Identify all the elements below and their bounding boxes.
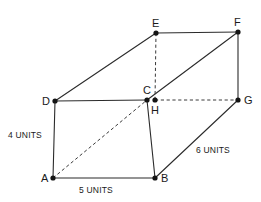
width-label: 5 UNITS: [79, 185, 113, 195]
vertex-dot-c: [144, 97, 149, 102]
height-label: 4 UNITS: [8, 130, 42, 140]
vertex-label-c: C: [143, 84, 151, 96]
depth-label: 6 UNITS: [196, 145, 230, 155]
vertex-label-a: A: [41, 172, 49, 184]
vertex-dots-group: [50, 29, 240, 180]
edge-a-c: [53, 100, 147, 178]
edge-d-c: [55, 100, 147, 101]
edges-group: [53, 32, 238, 178]
prism-diagram: ABCDEFGH 4 UNITS5 UNITS6 UNITS: [0, 0, 261, 202]
vertex-label-h: H: [151, 104, 159, 116]
edge-d-e: [55, 33, 156, 101]
vertex-label-d: D: [42, 95, 50, 107]
vertex-dot-b: [152, 175, 157, 180]
edge-a-d: [53, 101, 55, 178]
edge-f-c: [147, 32, 238, 100]
vertex-dot-d: [52, 98, 57, 103]
vertex-dot-f: [235, 29, 240, 34]
vertex-label-b: B: [161, 172, 168, 184]
vertex-label-f: F: [234, 16, 241, 28]
vertex-label-e: E: [152, 17, 159, 29]
vertex-dot-a: [50, 175, 55, 180]
vertex-label-g: G: [244, 94, 253, 106]
geometry-figure: ABCDEFGH 4 UNITS5 UNITS6 UNITS: [0, 0, 261, 202]
edge-e-h: [155, 33, 156, 100]
measurement-labels-group: 4 UNITS5 UNITS6 UNITS: [8, 130, 230, 195]
edge-e-f: [156, 32, 238, 33]
vertex-dot-g: [235, 97, 240, 102]
vertex-dot-h: [152, 97, 157, 102]
edge-b-g: [155, 100, 238, 178]
vertex-dot-e: [153, 30, 158, 35]
